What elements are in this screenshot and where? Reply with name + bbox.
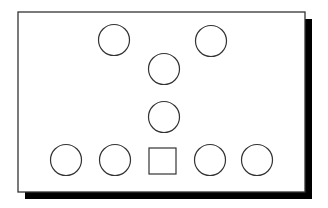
- diagram-canvas: [0, 0, 328, 208]
